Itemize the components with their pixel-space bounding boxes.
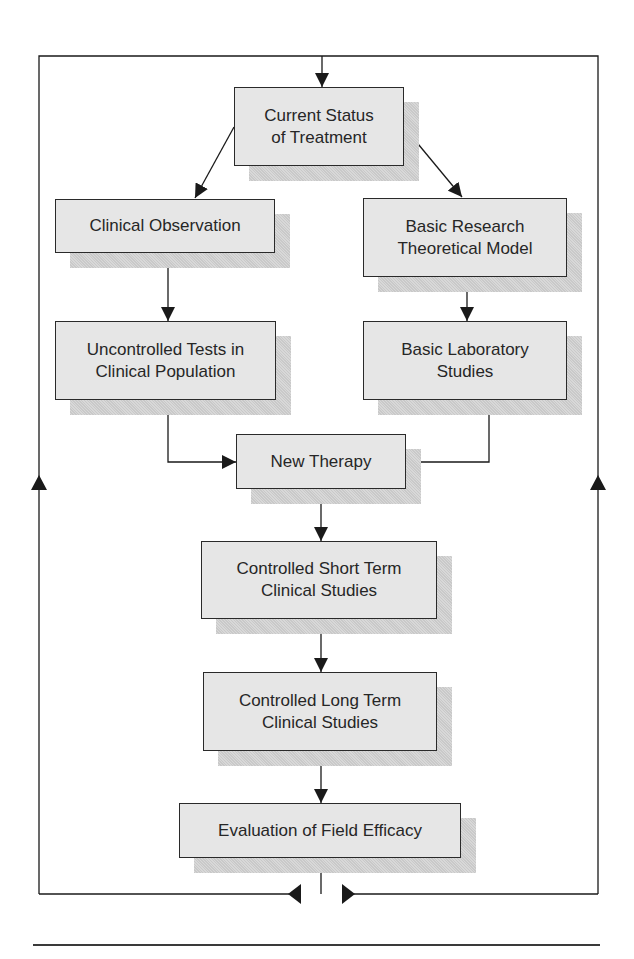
node-label: New Therapy — [271, 451, 372, 473]
node-uncontrolled-tests: Uncontrolled Tests in Clinical Populatio… — [55, 321, 276, 400]
node-label: Basic Research Theoretical Model — [397, 216, 532, 260]
node-current-status: Current Status of Treatment — [234, 87, 404, 166]
arrow-head-loop-left — [288, 884, 301, 904]
node-basic-research: Basic Research Theoretical Model — [363, 198, 567, 277]
node-label: Current Status of Treatment — [264, 105, 374, 149]
node-basic-lab: Basic Laboratory Studies — [363, 321, 567, 400]
arrow-head-loop-right — [342, 884, 355, 904]
node-long-term: Controlled Long Term Clinical Studies — [203, 672, 437, 751]
node-new-therapy: New Therapy — [236, 434, 406, 489]
node-short-term: Controlled Short Term Clinical Studies — [201, 541, 437, 619]
arrow-head-right-upward — [590, 475, 606, 490]
node-label: Uncontrolled Tests in Clinical Populatio… — [87, 339, 245, 383]
arrow-head-left-upward — [31, 475, 47, 490]
node-label: Clinical Observation — [89, 215, 240, 237]
flowchart-canvas: Current Status of Treatment Clinical Obs… — [0, 0, 634, 959]
arrow-current-to-clinical-observation — [195, 127, 234, 198]
node-label: Basic Laboratory Studies — [401, 339, 529, 383]
node-clinical-observation: Clinical Observation — [55, 199, 275, 253]
node-label: Evaluation of Field Efficacy — [218, 820, 422, 842]
node-label: Controlled Short Term Clinical Studies — [236, 558, 401, 602]
node-label: Controlled Long Term Clinical Studies — [239, 690, 401, 734]
node-field-efficacy: Evaluation of Field Efficacy — [179, 803, 461, 858]
